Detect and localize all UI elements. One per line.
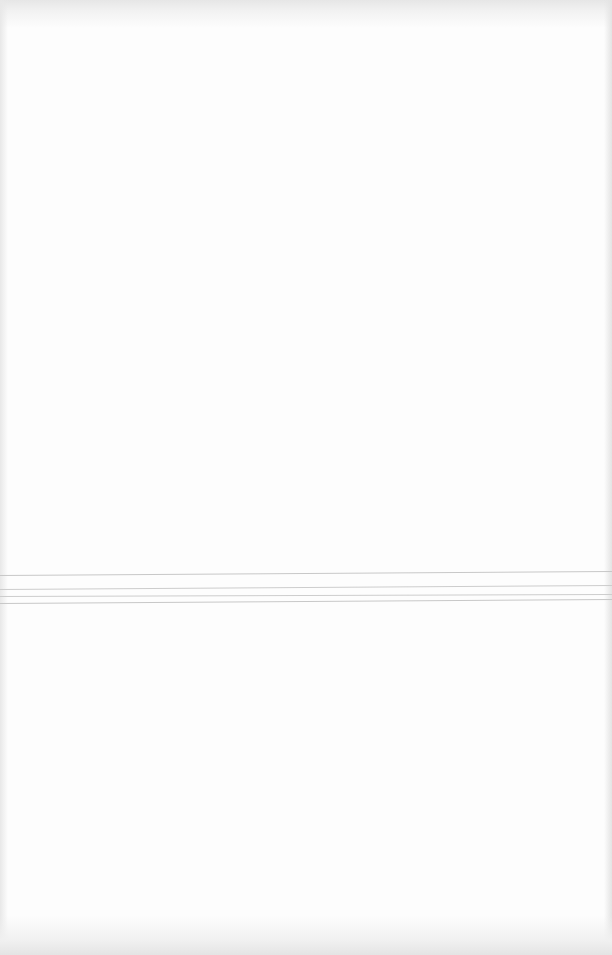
horizontal-rule	[0, 595, 612, 597]
blank-document-page	[0, 0, 612, 955]
horizontal-rule	[0, 586, 612, 590]
horizontal-rule	[0, 572, 612, 576]
horizontal-rule	[0, 600, 612, 604]
horizontal-rules	[0, 0, 612, 955]
